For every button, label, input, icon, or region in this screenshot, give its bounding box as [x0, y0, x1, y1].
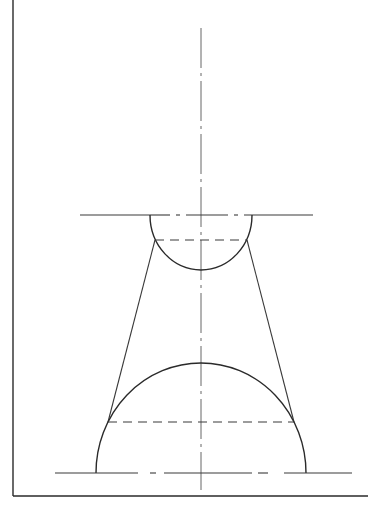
cone-right-generator — [247, 240, 294, 422]
cone-left-generator — [108, 240, 155, 422]
technical-drawing-canvas — [0, 0, 368, 515]
